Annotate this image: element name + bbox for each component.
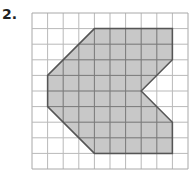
grid-figure	[0, 0, 196, 174]
